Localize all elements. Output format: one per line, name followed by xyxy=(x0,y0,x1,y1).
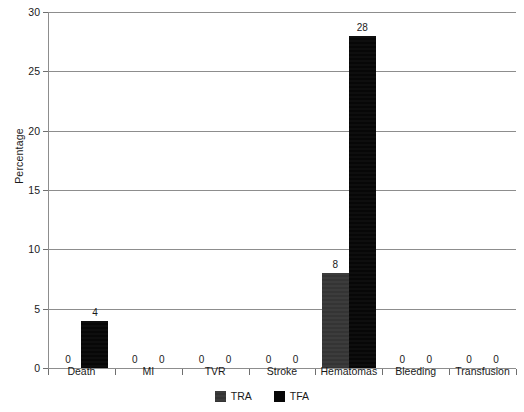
bar-tra-hematomas xyxy=(322,273,349,368)
x-axis-label: Hematomas xyxy=(321,365,378,377)
x-axis-label: MI xyxy=(142,365,154,377)
y-tick-label: 15 xyxy=(28,184,40,196)
y-tick-label: 30 xyxy=(28,6,40,18)
bar-value-label: 28 xyxy=(357,22,368,33)
bar-tfa-death xyxy=(81,321,108,368)
x-tick-mark xyxy=(182,369,183,375)
gridline xyxy=(48,131,516,132)
gridline xyxy=(48,12,516,13)
legend-label: TFA xyxy=(290,390,309,402)
x-axis-label: Death xyxy=(67,365,95,377)
y-tick-label: 20 xyxy=(28,125,40,137)
bar-value-label: 0 xyxy=(132,354,138,365)
x-axis-label: Transfusion xyxy=(455,365,509,377)
bar-value-label: 0 xyxy=(293,354,299,365)
legend: TRATFA xyxy=(0,390,524,402)
y-tick-label: 10 xyxy=(28,243,40,255)
gridline xyxy=(48,71,516,72)
legend-item-tfa: TFA xyxy=(274,390,309,402)
y-tick-mark xyxy=(43,190,48,191)
bar-value-label: 8 xyxy=(333,259,339,270)
legend-label: TRA xyxy=(231,390,252,402)
y-tick-mark xyxy=(43,249,48,250)
gridline xyxy=(48,309,516,310)
bar-value-label: 0 xyxy=(426,354,432,365)
legend-swatch-icon xyxy=(215,391,226,402)
bar-value-label: 4 xyxy=(92,307,98,318)
bar-value-label: 0 xyxy=(226,354,232,365)
gridline xyxy=(48,190,516,191)
x-tick-mark xyxy=(115,369,116,375)
gridline xyxy=(48,249,516,250)
bar-chart: Percentage 051015202530 040000008280000 … xyxy=(0,0,524,412)
y-tick-label: 25 xyxy=(28,65,40,77)
y-tick-mark xyxy=(43,71,48,72)
x-tick-mark xyxy=(449,369,450,375)
bar-tfa-hematomas xyxy=(349,36,376,368)
bar-value-label: 0 xyxy=(266,354,272,365)
x-axis-label: Stroke xyxy=(267,365,297,377)
bar-value-label: 0 xyxy=(199,354,205,365)
y-axis-title: Percentage xyxy=(13,101,25,211)
y-tick-label: 0 xyxy=(34,362,40,374)
bar-value-label: 0 xyxy=(159,354,165,365)
x-tick-mark xyxy=(315,369,316,375)
y-tick-label: 5 xyxy=(34,303,40,315)
legend-item-tra: TRA xyxy=(215,390,252,402)
bar-value-label: 0 xyxy=(466,354,472,365)
x-tick-mark xyxy=(48,369,49,375)
bar-value-label: 0 xyxy=(399,354,405,365)
x-tick-mark xyxy=(382,369,383,375)
x-tick-mark xyxy=(249,369,250,375)
x-axis-label: Bleeding xyxy=(395,365,436,377)
y-tick-mark xyxy=(43,131,48,132)
y-tick-mark xyxy=(43,309,48,310)
x-tick-mark xyxy=(516,369,517,375)
bar-value-label: 0 xyxy=(493,354,499,365)
y-tick-mark xyxy=(43,12,48,13)
x-axis-label: TVR xyxy=(205,365,226,377)
legend-swatch-icon xyxy=(274,391,285,402)
plot-area: 051015202530 040000008280000 xyxy=(48,12,516,368)
bar-value-label: 0 xyxy=(65,354,71,365)
